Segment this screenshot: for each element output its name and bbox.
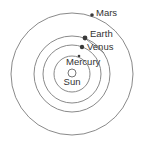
mercury-label: Mercury	[66, 56, 101, 67]
sun-label: Sun	[64, 76, 81, 87]
earth-label: Earth	[90, 28, 113, 39]
mars-planet-icon	[90, 13, 94, 17]
earth-planet-icon	[83, 36, 88, 41]
venus-planet-icon	[80, 45, 84, 49]
mars-label: Mars	[96, 7, 117, 18]
solar-system-diagram: Sun MercuryVenusEarthMars	[0, 0, 141, 144]
planets: MercuryVenusEarthMars	[66, 7, 117, 67]
venus-label: Venus	[87, 41, 114, 52]
